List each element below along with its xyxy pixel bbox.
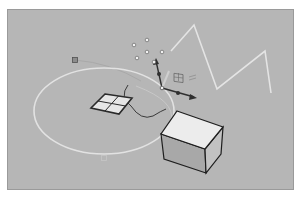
gumball-origin[interactable] xyxy=(160,86,164,90)
polyline-curve[interactable] xyxy=(171,25,271,93)
gumball-z-handle[interactable] xyxy=(157,72,161,76)
gumball-x-handle[interactable] xyxy=(176,91,180,95)
gumball-y-axis[interactable] xyxy=(162,71,169,88)
control-point[interactable] xyxy=(160,50,164,54)
gumball-scale-grid-icon[interactable] xyxy=(174,73,183,83)
gumball-x-arrow-icon[interactable] xyxy=(189,94,197,100)
control-point[interactable] xyxy=(132,43,136,47)
gumball-widget[interactable] xyxy=(153,58,197,100)
control-point[interactable] xyxy=(145,38,149,42)
perspective-viewport[interactable]: Perspective xyxy=(7,9,294,190)
point-marker-faint[interactable] xyxy=(102,156,107,161)
box-solid[interactable] xyxy=(161,111,223,173)
plane-surface[interactable] xyxy=(91,94,132,114)
control-point[interactable] xyxy=(152,60,156,64)
point-marker[interactable] xyxy=(73,58,78,63)
control-points[interactable] xyxy=(132,38,164,64)
scene-canvas[interactable] xyxy=(1,1,297,207)
control-point[interactable] xyxy=(145,50,149,54)
gumball-menu-lines-icon[interactable] xyxy=(189,75,196,80)
control-point[interactable] xyxy=(135,56,139,60)
